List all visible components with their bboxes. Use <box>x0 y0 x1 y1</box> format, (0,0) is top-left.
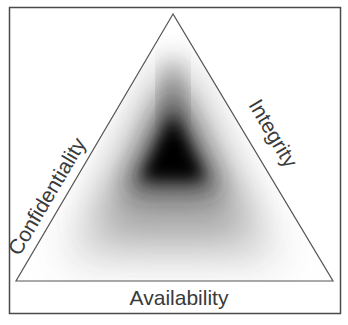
cia-triad-diagram: Confidentiality Integrity Availability <box>0 0 348 325</box>
label-availability: Availability <box>130 286 229 309</box>
